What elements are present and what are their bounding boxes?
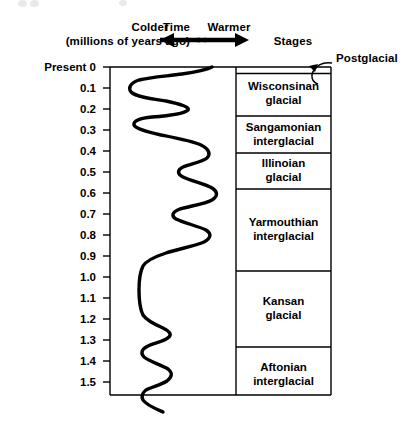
y-tick-label: 0.2 <box>20 103 96 115</box>
stage-label-wisconsinan: Wisconsinan glacial <box>236 80 331 107</box>
y-axis-ticks <box>103 67 110 382</box>
y-tick-label-present: Present 0 <box>0 61 96 73</box>
pleistocene-climate-figure: Time (millions of years ago) Colder Warm… <box>0 0 415 421</box>
y-tick-label: 0.8 <box>20 229 96 241</box>
y-tick-label: 0.7 <box>20 208 96 220</box>
y-tick-label: 0.3 <box>20 124 96 136</box>
stage-label-line: Sangamonian <box>236 121 331 135</box>
y-tick-label: 0.9 <box>20 250 96 262</box>
stage-label-line: interglacial <box>236 375 331 389</box>
y-tick-label: 1.1 <box>20 292 96 304</box>
y-tick-label: 1.5 <box>20 376 96 388</box>
y-tick-label: 1.0 <box>20 271 96 283</box>
stage-label-line: Kansan <box>236 295 331 309</box>
y-tick-label: 1.4 <box>20 355 96 367</box>
stage-label-line: Wisconsinan <box>236 80 331 94</box>
stage-label-illinoian: Illinoian glacial <box>236 157 331 184</box>
stage-label-kansan: Kansan glacial <box>236 295 331 322</box>
y-tick-label: 0.6 <box>20 187 96 199</box>
stage-label-yarmouthian: Yarmouthian interglacial <box>236 216 331 243</box>
y-tick-label: 1.3 <box>20 334 96 346</box>
y-tick-label: 0.4 <box>20 145 96 157</box>
stage-label-line: glacial <box>236 94 331 108</box>
stage-label-line: interglacial <box>236 135 331 149</box>
stage-label-line: glacial <box>236 171 331 185</box>
stage-label-line: Illinoian <box>236 157 331 171</box>
stage-label-line: glacial <box>236 309 331 323</box>
y-tick-label: 0.5 <box>20 166 96 178</box>
stage-label-aftonian: Aftonian interglacial <box>236 361 331 388</box>
y-tick-label: 1.2 <box>20 313 96 325</box>
stage-label-line: Yarmouthian <box>236 216 331 230</box>
stage-label-line: Aftonian <box>236 361 331 375</box>
climate-curve <box>130 67 217 412</box>
y-tick-label: 0.1 <box>20 82 96 94</box>
stage-label-sangamonian: Sangamonian interglacial <box>236 121 331 148</box>
stage-label-line: interglacial <box>236 230 331 244</box>
